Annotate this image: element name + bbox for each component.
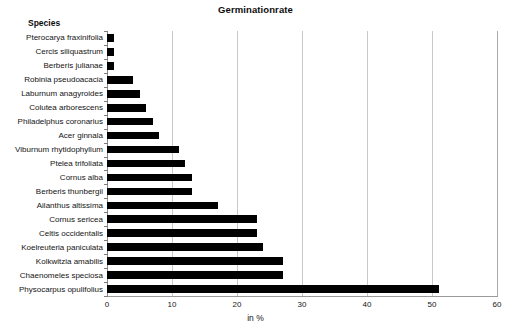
category-axis-tick (104, 170, 108, 171)
category-label: Celtis occidentalis (0, 229, 103, 238)
x-tick-label-0: 0 (105, 300, 109, 309)
gridline-30 (302, 31, 303, 296)
category-axis-tick (104, 31, 108, 32)
category-axis-tick (104, 198, 108, 199)
bar (107, 257, 283, 265)
category-axis-tick (104, 282, 108, 283)
value-axis-title: in % (0, 313, 511, 323)
category-axis-tick (104, 296, 108, 297)
x-tick-label-10: 10 (168, 300, 177, 309)
bar (107, 202, 218, 210)
chart-title: Germinationrate (0, 4, 511, 15)
category-label: Viburnum rhytidophyllum (0, 145, 103, 154)
category-axis-tick (104, 101, 108, 102)
category-axis-tick (104, 240, 108, 241)
x-axis-baseline (107, 296, 498, 297)
bar (107, 215, 257, 223)
category-axis-title: Species (28, 18, 60, 28)
category-label: Philadelphus coronarius (0, 117, 103, 126)
gridline-40 (367, 31, 368, 296)
category-label: Laburnum anagyroides (0, 89, 103, 98)
bar (107, 104, 146, 112)
category-axis-tick (104, 87, 108, 88)
bar (107, 243, 263, 251)
category-axis-tick (104, 184, 108, 185)
category-label: Kolkwitzia amabilis (0, 257, 103, 266)
category-label: Ptelea trifoliata (0, 159, 103, 168)
bar (107, 271, 283, 279)
category-axis-tick (104, 226, 108, 227)
germination-rate-bar-chart: Germinationrate Species in % 01020304050… (0, 0, 511, 331)
category-axis-tick (104, 143, 108, 144)
bar (107, 229, 257, 237)
category-label: Koelreuteria paniculata (0, 243, 103, 252)
category-axis-tick (104, 212, 108, 213)
x-tick-label-60: 60 (493, 300, 502, 309)
category-label: Ailanthus altissima (0, 201, 103, 210)
bar (107, 146, 179, 154)
bar (107, 188, 192, 196)
category-label: Physocarpus opulifolius (0, 285, 103, 294)
bar (107, 90, 140, 98)
category-axis-tick (104, 157, 108, 158)
category-label: Colutea arborescens (0, 103, 103, 112)
category-label: Berberis julianae (0, 61, 103, 70)
category-label: Cornus alba (0, 173, 103, 182)
category-axis-tick (104, 59, 108, 60)
bar (107, 285, 439, 293)
bar (107, 62, 114, 70)
category-label: Robinia pseudoacacia (0, 75, 103, 84)
x-tick-label-40: 40 (363, 300, 372, 309)
category-label: Pterocarya fraxinifolia (0, 33, 103, 42)
gridline-50 (432, 31, 433, 296)
category-axis-tick (104, 115, 108, 116)
bar (107, 76, 133, 84)
category-label: Acer ginnala (0, 131, 103, 140)
x-tick-label-30: 30 (298, 300, 307, 309)
category-label: Cornus sericea (0, 215, 103, 224)
category-axis-tick (104, 73, 108, 74)
category-label: Cercis siliquastrum (0, 47, 103, 56)
category-label: Chaenomeles speciosa (0, 271, 103, 280)
gridline-60 (497, 31, 498, 296)
category-axis-tick (104, 268, 108, 269)
bar (107, 160, 185, 168)
category-label: Berberis thunbergii (0, 187, 103, 196)
category-axis-tick (104, 45, 108, 46)
bar (107, 34, 114, 42)
bar (107, 118, 153, 126)
bar (107, 48, 114, 56)
gridline-20 (237, 31, 238, 296)
x-tick-label-20: 20 (233, 300, 242, 309)
x-tick-label-50: 50 (428, 300, 437, 309)
category-axis-tick (104, 254, 108, 255)
value-axis-title-text: in % (247, 313, 264, 323)
bar (107, 174, 192, 182)
bar (107, 132, 159, 140)
category-axis-tick (104, 129, 108, 130)
